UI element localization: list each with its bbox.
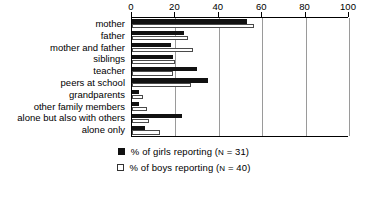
legend-label: % of girls reporting (N = 31): [131, 146, 249, 157]
bar-boys: [132, 83, 191, 87]
bar-boys: [132, 48, 193, 52]
bar-girls: [132, 126, 145, 130]
bar-girls: [132, 19, 247, 23]
bar-row: [132, 124, 348, 136]
filled-square-icon: [118, 148, 125, 155]
plot-area-wrapper: 020406080100 motherfathermother and fath…: [0, 0, 367, 140]
bar-girls: [132, 55, 173, 59]
bar-row: [132, 89, 348, 101]
bar-boys: [132, 107, 147, 111]
bar-row: [132, 18, 348, 30]
bar-girls: [132, 78, 208, 82]
x-tick-label: 20: [169, 1, 180, 12]
x-tick-label: 0: [128, 1, 133, 12]
bar-rows: [132, 18, 348, 136]
bar-girls: [132, 102, 139, 106]
category-label: alone only: [0, 124, 128, 136]
x-tick-label: 40: [213, 1, 224, 12]
category-label: mother and father: [0, 42, 128, 54]
category-label: teacher: [0, 65, 128, 77]
category-label: other family members: [0, 101, 128, 113]
bar-row: [132, 30, 348, 42]
bar-chart: 020406080100 motherfathermother and fath…: [0, 0, 367, 205]
chart-legend: % of girls reporting (N = 31)% of boys r…: [0, 146, 367, 173]
bar-boys: [132, 119, 149, 123]
x-tick-label: 80: [299, 1, 310, 12]
bar-boys: [132, 95, 143, 99]
category-label: peers at school: [0, 77, 128, 89]
gridline: [349, 18, 350, 136]
bar-girls: [132, 31, 184, 35]
bar-row: [132, 42, 348, 54]
bar-boys: [132, 71, 173, 75]
bar-row: [132, 112, 348, 124]
legend-item: % of boys reporting (N = 40): [117, 162, 251, 173]
bar-boys: [132, 36, 188, 40]
bar-boys: [132, 60, 175, 64]
x-tick-mark: [348, 12, 349, 17]
bar-row: [132, 77, 348, 89]
legend-item: % of girls reporting (N = 31): [118, 146, 249, 157]
bar-boys: [132, 24, 254, 28]
x-tick-label: 100: [340, 1, 356, 12]
category-label: grandparents: [0, 89, 128, 101]
bar-girls: [132, 67, 197, 71]
legend-label: % of boys reporting (N = 40): [130, 162, 251, 173]
bar-row: [132, 53, 348, 65]
x-axis-bottom-line: [131, 136, 348, 137]
category-label: alone but also with others: [0, 112, 128, 124]
bar-girls: [132, 114, 182, 118]
bar-girls: [132, 43, 171, 47]
category-label: mother: [0, 18, 128, 30]
bar-boys: [132, 130, 160, 134]
x-axis-ticks: 020406080100: [0, 0, 367, 18]
x-tick-label: 60: [256, 1, 267, 12]
bar-row: [132, 101, 348, 113]
category-axis-labels: motherfathermother and fathersiblingstea…: [0, 18, 128, 136]
category-label: father: [0, 30, 128, 42]
category-label: siblings: [0, 53, 128, 65]
hollow-square-icon: [117, 164, 124, 171]
plot-area: [131, 18, 348, 136]
bar-girls: [132, 90, 139, 94]
bar-row: [132, 65, 348, 77]
